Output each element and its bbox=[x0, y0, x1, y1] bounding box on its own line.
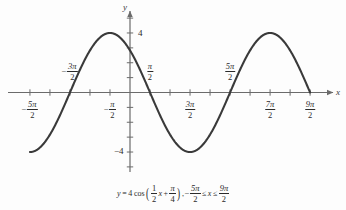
x-tick-label-sign: − bbox=[104, 105, 109, 114]
x-tick-label-numerator: 9π bbox=[305, 100, 316, 110]
caption-comma: , bbox=[182, 190, 184, 198]
x-tick-label: −5π2 bbox=[22, 100, 38, 119]
caption-close-paren: ) bbox=[177, 188, 180, 199]
caption-le-right: ≤ bbox=[213, 190, 217, 198]
x-tick-label-numerator: 3π bbox=[67, 62, 78, 72]
caption-phase-den: 4 bbox=[169, 194, 175, 203]
x-tick-label-fraction: π2 bbox=[147, 62, 153, 81]
x-tick-label-numerator: 3π bbox=[185, 100, 196, 110]
x-tick-label-numerator: 5π bbox=[225, 62, 236, 72]
caption-phase-num: π bbox=[169, 184, 175, 194]
x-tick-label-denominator: 2 bbox=[227, 72, 233, 81]
plot-canvas bbox=[0, 0, 346, 210]
x-tick-label: −π2 bbox=[104, 100, 116, 119]
x-tick-label-fraction: 5π2 bbox=[27, 100, 38, 119]
x-tick-label: 3π2 bbox=[184, 100, 196, 119]
caption-domain-lower-den: 2 bbox=[192, 194, 198, 203]
caption-domain-variable: x bbox=[208, 190, 212, 198]
x-tick-label-numerator: π bbox=[147, 62, 153, 72]
caption-domain-upper-num: 9π bbox=[219, 184, 230, 194]
caption-equation: y = 4 cos ( 1 2 x + π 4 ) , − 5π 2 ≤ x bbox=[116, 184, 229, 203]
caption-lhs: y bbox=[117, 190, 121, 198]
caption-open-paren: ( bbox=[146, 188, 149, 199]
x-tick-label-denominator: 2 bbox=[109, 110, 115, 119]
caption-domain-upper-den: 2 bbox=[221, 194, 227, 203]
y-axis-label: y bbox=[123, 2, 127, 12]
caption-function-name: cos bbox=[134, 190, 145, 198]
caption-domain-upper: 9π 2 bbox=[219, 184, 230, 203]
x-tick-label: 9π2 bbox=[304, 100, 316, 119]
x-tick-label-numerator: 7π bbox=[265, 100, 276, 110]
x-tick-label-denominator: 2 bbox=[29, 110, 35, 119]
x-tick-label: 5π2 bbox=[224, 62, 236, 81]
caption-plus: + bbox=[164, 190, 169, 198]
x-tick-label-sign: − bbox=[22, 105, 27, 114]
y-tick-label-neg4: −4 bbox=[114, 147, 124, 156]
caption-inner-coefficient-den: 2 bbox=[151, 194, 157, 203]
x-tick-label: −3π2 bbox=[62, 62, 78, 81]
caption-inner-coefficient: 1 2 bbox=[151, 184, 157, 203]
caption-phase: π 4 bbox=[169, 184, 175, 203]
caption-amplitude: 4 bbox=[128, 190, 132, 198]
x-axis-label: x bbox=[336, 87, 340, 97]
x-tick-label-denominator: 2 bbox=[147, 72, 153, 81]
x-tick-label-fraction: 5π2 bbox=[225, 62, 236, 81]
x-tick-label-fraction: 3π2 bbox=[185, 100, 196, 119]
caption-le-left: ≤ bbox=[202, 190, 206, 198]
x-tick-label: 7π2 bbox=[264, 100, 276, 119]
x-tick-label-sign: − bbox=[62, 67, 67, 76]
x-tick-label-fraction: 3π2 bbox=[67, 62, 78, 81]
y-tick-label-4: 4 bbox=[138, 29, 143, 38]
figure-caption: y = 4 cos ( 1 2 x + π 4 ) , − 5π 2 ≤ x bbox=[0, 184, 346, 203]
x-tick-label-denominator: 2 bbox=[187, 110, 193, 119]
x-tick-label-denominator: 2 bbox=[69, 72, 75, 81]
caption-equals: = bbox=[122, 190, 127, 198]
x-tick-label-denominator: 2 bbox=[307, 110, 313, 119]
x-tick-label-fraction: π2 bbox=[109, 100, 115, 119]
caption-domain-lower-sign: − bbox=[185, 189, 190, 198]
x-tick-label-numerator: 5π bbox=[27, 100, 38, 110]
caption-inner-variable: x bbox=[158, 190, 162, 198]
x-tick-label-numerator: π bbox=[109, 100, 115, 110]
x-tick-label-fraction: 7π2 bbox=[265, 100, 276, 119]
caption-domain-lower: 5π 2 bbox=[190, 184, 201, 203]
graph-figure: y x 4 −4 −5π2−3π2−π2π23π25π27π29π2 y = 4… bbox=[0, 0, 346, 210]
x-tick-label-fraction: 9π2 bbox=[305, 100, 316, 119]
x-tick-label: π2 bbox=[146, 62, 153, 81]
x-tick-label-denominator: 2 bbox=[267, 110, 273, 119]
caption-inner-coefficient-num: 1 bbox=[151, 184, 157, 194]
caption-domain-lower-num: 5π bbox=[190, 184, 201, 194]
